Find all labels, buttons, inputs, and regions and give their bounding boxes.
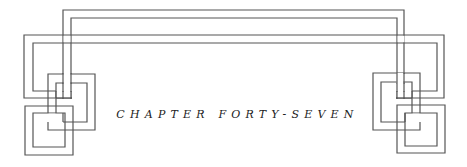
chapter-heading: CHAPTER FORTY-SEVEN <box>0 108 467 121</box>
knotwork-border-ornament <box>0 0 467 167</box>
top-band <box>63 10 404 92</box>
